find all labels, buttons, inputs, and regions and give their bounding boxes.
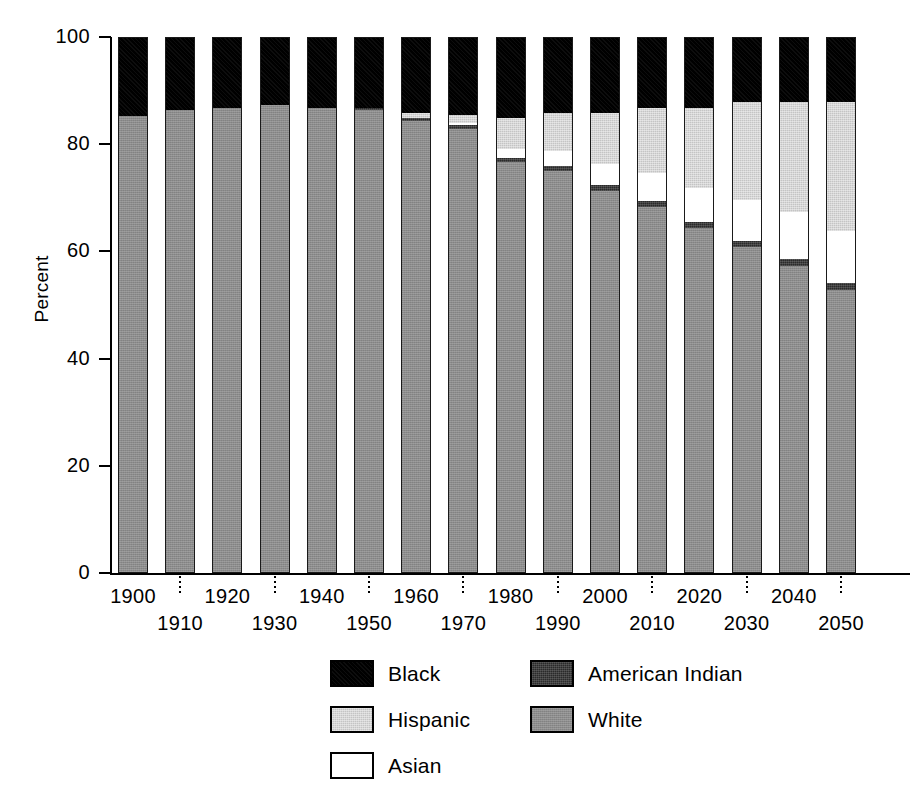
legend-item-black[interactable]: Black xyxy=(330,660,440,687)
bar-segment-asian xyxy=(591,164,619,185)
bar-segment-hispanic xyxy=(733,102,761,200)
bar-2010 xyxy=(637,37,667,573)
bar-1940 xyxy=(307,37,337,573)
bar-segment-black xyxy=(685,38,713,108)
bar-segment-american-indian xyxy=(827,283,855,290)
bar-segment-asian xyxy=(638,173,666,201)
bar-segment-hispanic xyxy=(827,102,855,231)
bar-2000 xyxy=(590,37,620,573)
bar-segment-black xyxy=(780,38,808,102)
bar-1900 xyxy=(118,37,148,573)
legend-label: Hispanic xyxy=(388,709,470,730)
bar-segment-black xyxy=(119,38,147,116)
x-axis-label-1960: 1960 xyxy=(371,585,461,607)
x-axis-label-2040: 2040 xyxy=(749,585,839,607)
bar-2030 xyxy=(732,37,762,573)
bar-1960 xyxy=(401,37,431,573)
legend-row: BlackAmerican Indian xyxy=(330,660,750,706)
x-tick-mark xyxy=(840,576,842,594)
bar-segment-white xyxy=(685,228,713,573)
bar-segment-hispanic xyxy=(449,115,477,123)
legend-swatch-white-icon xyxy=(530,706,574,733)
bar-segment-white xyxy=(213,108,241,573)
x-tick-mark xyxy=(462,576,464,594)
bar-segment-black xyxy=(544,38,572,113)
bar-segment-white xyxy=(544,171,572,573)
bar-segment-hispanic xyxy=(780,102,808,212)
bar-segment-white xyxy=(119,116,147,573)
bar-segment-white xyxy=(827,290,855,573)
bar-1920 xyxy=(212,37,242,573)
stacked-bar-chart: Percent 100806040200 1900191019201930194… xyxy=(0,0,920,799)
x-axis-label-2030: 2030 xyxy=(702,612,792,634)
legend-item-american-indian[interactable]: American Indian xyxy=(530,660,743,687)
x-axis-label-1970: 1970 xyxy=(418,612,508,634)
x-axis-label-1910: 1910 xyxy=(135,612,225,634)
legend-swatch-amerindian-icon xyxy=(530,660,574,687)
bar-segment-black xyxy=(827,38,855,102)
bar-segment-white xyxy=(308,108,336,573)
bar-segment-black xyxy=(733,38,761,102)
legend-item-white[interactable]: White xyxy=(530,706,643,733)
legend-row: HispanicWhite xyxy=(330,706,750,752)
plot-area xyxy=(0,0,920,574)
legend: BlackAmerican IndianHispanicWhiteAsian xyxy=(330,660,750,798)
bar-1980 xyxy=(496,37,526,573)
x-axis-label-2050: 2050 xyxy=(796,612,886,634)
bar-segment-white xyxy=(780,266,808,573)
bar-segment-white xyxy=(449,129,477,573)
x-axis-label-1990: 1990 xyxy=(513,612,603,634)
x-tick-mark xyxy=(368,576,370,594)
x-tick-mark xyxy=(746,576,748,594)
legend-label: American Indian xyxy=(588,663,743,684)
legend-label: White xyxy=(588,709,643,730)
x-axis-label-2010: 2010 xyxy=(607,612,697,634)
legend-label: Black xyxy=(388,663,440,684)
x-axis-label-1940: 1940 xyxy=(277,585,367,607)
bar-segment-asian xyxy=(780,212,808,259)
x-axis-line xyxy=(110,573,910,575)
bar-1910 xyxy=(165,37,195,573)
x-axis-label-2020: 2020 xyxy=(654,585,744,607)
bar-segment-black xyxy=(402,38,430,113)
bar-segment-asian xyxy=(827,231,855,283)
bar-segment-white xyxy=(402,121,430,573)
bar-segment-asian xyxy=(733,200,761,241)
bar-1930 xyxy=(260,37,290,573)
x-tick-mark xyxy=(557,576,559,594)
bar-segment-black xyxy=(638,38,666,108)
legend-swatch-asian-icon xyxy=(330,752,374,779)
bar-segment-hispanic xyxy=(544,113,572,151)
legend-swatch-black-icon xyxy=(330,660,374,687)
legend-item-hispanic[interactable]: Hispanic xyxy=(330,706,470,733)
bar-1970 xyxy=(448,37,478,573)
bar-segment-black xyxy=(497,38,525,118)
bar-1950 xyxy=(354,37,384,573)
bar-1990 xyxy=(543,37,573,573)
legend-label: Asian xyxy=(388,755,442,776)
bar-segment-hispanic xyxy=(685,108,713,188)
bar-segment-black xyxy=(213,38,241,108)
x-axis-label-1980: 1980 xyxy=(466,585,556,607)
bar-segment-white xyxy=(638,207,666,573)
bar-2050 xyxy=(826,37,856,573)
legend-row: Asian xyxy=(330,752,750,798)
bar-segment-black xyxy=(261,38,289,105)
bar-segment-black xyxy=(449,38,477,115)
bar-segment-white xyxy=(591,191,619,573)
bar-segment-hispanic xyxy=(638,108,666,173)
bar-segment-black xyxy=(591,38,619,113)
legend-item-asian[interactable]: Asian xyxy=(330,752,442,779)
bar-segment-white xyxy=(497,162,525,573)
bar-segment-white xyxy=(733,247,761,573)
bar-segment-asian xyxy=(497,149,525,158)
x-tick-mark xyxy=(179,576,181,594)
bar-segment-white xyxy=(355,110,383,573)
bar-segment-white xyxy=(166,110,194,573)
x-axis-label-1950: 1950 xyxy=(324,612,414,634)
legend-swatch-hispanic-icon xyxy=(330,706,374,733)
bar-segment-hispanic xyxy=(497,118,525,149)
x-tick-mark xyxy=(651,576,653,594)
x-axis-label-1920: 1920 xyxy=(182,585,272,607)
bar-segment-hispanic xyxy=(591,113,619,164)
